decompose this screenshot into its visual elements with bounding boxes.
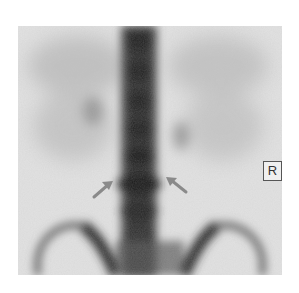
right-side-marker: R	[263, 161, 282, 181]
scintigraphy-image	[18, 26, 282, 275]
scan-graphic	[18, 26, 282, 275]
